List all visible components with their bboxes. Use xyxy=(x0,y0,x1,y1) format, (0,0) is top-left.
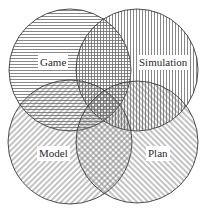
label-game: Game xyxy=(38,55,68,70)
label-model-text: Model xyxy=(39,147,68,159)
label-simulation-text: Simulation xyxy=(139,56,187,68)
label-model: Model xyxy=(37,146,70,161)
set-plan xyxy=(76,81,198,203)
circle-plan xyxy=(76,81,198,203)
label-simulation: Simulation xyxy=(137,55,189,70)
label-plan-text: Plan xyxy=(148,147,168,159)
label-game-text: Game xyxy=(40,56,66,68)
venn-diagram xyxy=(0,0,209,212)
label-plan: Plan xyxy=(146,146,170,161)
